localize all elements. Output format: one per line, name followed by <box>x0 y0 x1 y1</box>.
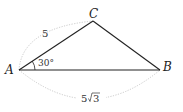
vertex-label-a: A <box>4 63 14 77</box>
vertex-label-c: C <box>89 7 98 21</box>
edge-ac <box>19 21 93 70</box>
side-length-ab-radicand: 3 <box>93 93 99 104</box>
side-length-ac: 5 <box>42 28 48 39</box>
edge-cb <box>93 21 160 70</box>
angle-arc-a <box>32 61 35 70</box>
vertex-label-b: B <box>162 60 172 74</box>
angle-label-a: 30° <box>38 58 54 68</box>
side-length-ab-coef: 5 <box>81 93 87 104</box>
side-length-ab: 5 3 <box>76 92 106 104</box>
triangle-diagram: A B C 30° 5 5 3 <box>0 0 183 112</box>
